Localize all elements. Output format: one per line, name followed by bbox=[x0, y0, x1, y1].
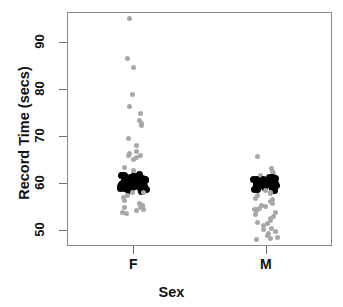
data-point bbox=[255, 220, 260, 225]
y-axis-tick bbox=[59, 230, 67, 231]
record-time-by-sex-chart: 5060708090 FM Record Time (secs) Sex bbox=[0, 0, 343, 307]
y-axis-tick-label: 60 bbox=[32, 167, 47, 197]
data-point bbox=[127, 104, 132, 109]
x-axis-tick-label: M bbox=[246, 256, 286, 272]
data-point bbox=[126, 153, 131, 158]
y-axis-tick-label: 50 bbox=[32, 214, 47, 244]
data-point bbox=[130, 92, 135, 97]
plot-area bbox=[67, 12, 332, 246]
y-axis-tick bbox=[59, 42, 67, 43]
y-axis-tick bbox=[59, 89, 67, 90]
x-axis-title: Sex bbox=[0, 284, 343, 300]
x-axis-tick bbox=[266, 246, 267, 254]
y-axis-tick-label: 70 bbox=[32, 121, 47, 151]
data-point bbox=[253, 196, 258, 201]
data-point bbox=[273, 229, 278, 234]
data-point bbox=[253, 212, 258, 217]
data-point bbox=[127, 16, 132, 21]
x-axis-tick bbox=[133, 246, 134, 254]
y-axis-tick bbox=[59, 136, 67, 137]
data-point bbox=[139, 123, 144, 128]
x-axis-tick-label: F bbox=[113, 256, 153, 272]
y-axis-tick-label: 80 bbox=[32, 74, 47, 104]
y-axis-tick-label: 90 bbox=[32, 27, 47, 57]
data-point bbox=[134, 143, 139, 148]
y-axis-title: Record Time (secs) bbox=[16, 23, 32, 243]
y-axis-tick bbox=[59, 183, 67, 184]
